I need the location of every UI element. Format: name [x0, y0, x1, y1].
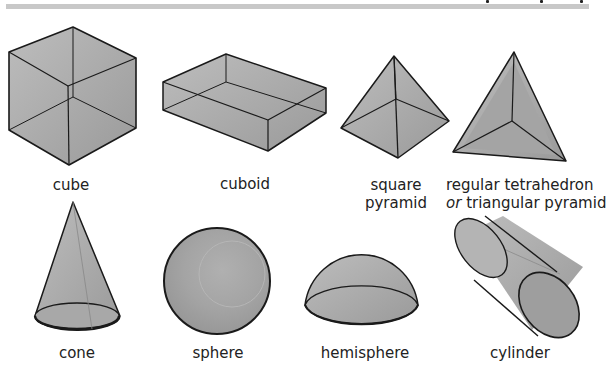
square-pyramid-label-line1: square: [360, 176, 432, 194]
tetrahedron-label-line1: regular tetrahedron: [446, 176, 586, 194]
tetrahedron-label-or: or: [446, 194, 461, 212]
cone-label: cone: [50, 344, 104, 362]
tetrahedron-label-line2-rest: triangular pyramid: [461, 194, 606, 212]
cuboid-shape: [163, 54, 326, 151]
sphere-label: sphere: [190, 344, 246, 362]
hemisphere-shape: [305, 255, 418, 324]
hemisphere-label: hemisphere: [320, 344, 410, 362]
cube-label: cube: [40, 176, 102, 194]
tetrahedron-shape: [453, 52, 566, 161]
tetrahedron-label-line2: or triangular pyramid: [446, 194, 586, 212]
cuboid-label: cuboid: [205, 175, 285, 193]
cone-shape: [35, 202, 120, 330]
tetrahedron-label: regular tetrahedron or triangular pyrami…: [446, 176, 586, 212]
cube-shape: [9, 27, 136, 165]
cylinder-shape: [444, 209, 589, 349]
cylinder-label: cylinder: [485, 344, 555, 362]
sphere-shape: [164, 228, 270, 334]
square-pyramid-label: square pyramid: [360, 176, 432, 212]
square-pyramid-label-line2: pyramid: [360, 194, 432, 212]
square-pyramid-shape: [341, 56, 449, 158]
